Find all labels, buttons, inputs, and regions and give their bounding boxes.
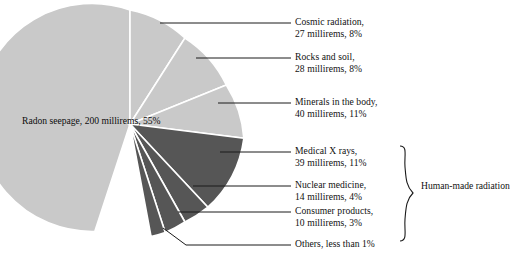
slice-label-radon-seepage-line2: 200 millirems, — [85, 115, 141, 126]
group-label-human-made-radiation-line1: Human-made — [421, 180, 473, 191]
slice-label-radon-seepage-line1: Radon seepage, — [22, 115, 82, 126]
group-label-human-made-radiation: Human-made radiation — [421, 180, 510, 192]
slice-label-rocks-and-soil-line2: 28 millirems, 8% — [295, 63, 362, 75]
slice-label-nuclear-medicine-line2: 14 millirems, 4% — [295, 191, 366, 203]
slice-label-rocks-and-soil: Rocks and soil, 28 millirems, 8% — [295, 51, 362, 74]
slice-label-medical-x-rays-line1: Medical X rays, — [295, 145, 367, 157]
slice-label-medical-x-rays: Medical X rays, 39 millirems, 11% — [295, 145, 367, 168]
slice-label-consumer-products-line2: 10 millirems, 3% — [295, 217, 373, 229]
slice-label-radon-seepage-line3: 55% — [143, 115, 161, 126]
slice-label-cosmic-radiation-line1: Cosmic radiation, — [295, 16, 364, 28]
slice-label-minerals-in-the-body-line2: 40 millirems, 11% — [295, 108, 378, 120]
slice-label-minerals-in-the-body: Minerals in the body, 40 millirems, 11% — [295, 96, 378, 119]
slice-label-consumer-products: Consumer products, 10 millirems, 3% — [295, 205, 373, 228]
group-brace-human-made — [400, 146, 413, 241]
slice-label-rocks-and-soil-line1: Rocks and soil, — [295, 51, 362, 63]
slice-label-others: Others, less than 1% — [295, 238, 375, 250]
slice-label-consumer-products-line1: Consumer products, — [295, 205, 373, 217]
slice-label-nuclear-medicine-line1: Nuclear medicine, — [295, 179, 366, 191]
slice-label-medical-x-rays-line2: 39 millirems, 11% — [295, 157, 367, 169]
slice-label-nuclear-medicine: Nuclear medicine, 14 millirems, 4% — [295, 179, 366, 202]
slice-label-radon-seepage: Radon seepage, 200 millirems, 55% — [22, 115, 142, 127]
slice-label-cosmic-radiation: Cosmic radiation, 27 millirems, 8% — [295, 16, 364, 39]
slice-label-cosmic-radiation-line2: 27 millirems, 8% — [295, 28, 364, 40]
slice-label-minerals-in-the-body-line1: Minerals in the body, — [295, 96, 378, 108]
group-label-human-made-radiation-line2: radiation — [476, 180, 510, 191]
leader-line-others — [163, 228, 291, 245]
slice-label-others-line1: Others, less than 1% — [295, 238, 375, 250]
